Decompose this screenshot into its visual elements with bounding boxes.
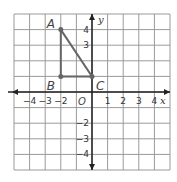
y-axis-label: y: [97, 14, 104, 25]
y-axis-up-arrow-icon: [89, 14, 95, 20]
point-a: [58, 27, 63, 32]
axes: x y O: [8, 14, 170, 170]
x-tick-label: −4: [23, 96, 37, 106]
point-label-b: B: [47, 79, 55, 93]
x-tick-label: 3: [136, 96, 142, 106]
coordinate-plane: x y O −4−3−2123443−2−3−4 ABC: [0, 0, 177, 182]
x-tick-label: 2: [120, 96, 126, 106]
y-tick-label: 4: [83, 25, 89, 35]
x-axis-left-arrow-icon: [12, 89, 18, 95]
x-tick-label: 1: [105, 96, 111, 106]
y-tick-label: −4: [76, 149, 90, 159]
origin-label: O: [78, 96, 86, 107]
point-c: [90, 74, 95, 79]
point-label-c: C: [96, 79, 105, 93]
point-label-a: A: [46, 17, 55, 31]
point-b: [58, 74, 63, 79]
y-tick-label: −3: [76, 134, 89, 144]
y-tick-label: −2: [76, 118, 89, 128]
triangle-abc: ABC: [46, 17, 105, 94]
x-axis-label: x: [160, 95, 166, 106]
x-tick-label: −2: [54, 96, 67, 106]
x-tick-label: −3: [39, 96, 52, 106]
x-tick-label: 4: [152, 96, 158, 106]
y-tick-label: 3: [83, 40, 89, 50]
y-axis-down-arrow-icon: [89, 164, 95, 170]
